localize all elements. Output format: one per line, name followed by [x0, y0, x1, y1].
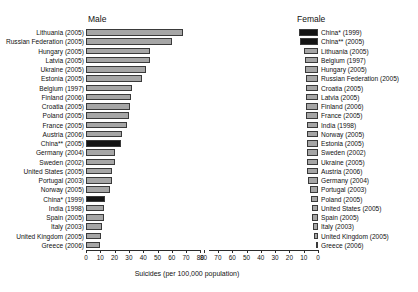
bar-track [209, 111, 318, 120]
bar-track [209, 130, 318, 139]
bar-label: Belgium (1997) [0, 85, 86, 92]
bar-label: Ukraine (2005) [0, 66, 86, 73]
bar-label: Greece (2006) [0, 242, 86, 249]
axis-tick-label: 40 [257, 254, 264, 261]
bar-row: Germany (2004) [209, 176, 418, 185]
axis-tick-label: 30 [272, 254, 279, 261]
bar-label: Lithuania (2005) [0, 29, 86, 36]
bar-label: Russian Federation (2005) [0, 38, 86, 45]
bar-row: Italy (2003) [209, 222, 418, 231]
bar-track [86, 102, 209, 111]
bar [86, 205, 104, 212]
bar [86, 122, 127, 129]
bar-label: Poland (2005) [0, 112, 86, 119]
bar-track [209, 74, 318, 83]
bar-label: India (1998) [318, 122, 356, 129]
bar-row: Greece (2006) [209, 241, 418, 250]
axis-tick [86, 250, 87, 253]
bar-row: Finland (2006) [209, 102, 418, 111]
bar-row: Estonia (2005) [0, 74, 209, 83]
bar [86, 159, 115, 166]
bar-track [86, 195, 209, 204]
axis-tick [200, 250, 201, 253]
bar [307, 159, 318, 166]
bar-track [209, 204, 318, 213]
bar-track [86, 222, 209, 231]
bar [86, 48, 150, 55]
bar-label: Croatia (2005) [0, 103, 86, 110]
bar-label: Finland (2006) [318, 103, 364, 110]
bar-label: Greece (2006) [318, 242, 364, 249]
bar-label: United States (2005) [318, 205, 381, 212]
plot-area-female: China* (1999)China** (2005)Lithuania (20… [209, 28, 418, 250]
bar [86, 149, 115, 156]
bar-track [209, 148, 318, 157]
bar [86, 94, 131, 101]
bar [307, 168, 318, 175]
axis-tick [186, 250, 187, 253]
x-axis-caption: Suicides (per 100,000 population) [0, 270, 418, 277]
bar-row: Greece (2006) [0, 241, 209, 250]
bar [312, 205, 318, 212]
bar-label: Hungary (2005) [0, 48, 86, 55]
bar-row: Belgium (1997) [0, 84, 209, 93]
bar [311, 196, 318, 203]
bar-track [86, 139, 209, 148]
bar [86, 85, 132, 92]
bar-track [86, 130, 209, 139]
bar-track [209, 28, 318, 37]
bar [307, 140, 318, 147]
bar-row: Sweden (2002) [209, 148, 418, 157]
bar-track [209, 37, 318, 46]
bar-track [86, 28, 209, 37]
bar-row: Poland (2005) [0, 111, 209, 120]
axis-tick [232, 250, 233, 253]
bar [86, 112, 129, 119]
bar-label: United Kingdom (2005) [318, 233, 389, 240]
bar-track [209, 195, 318, 204]
bar-label: Norway (2005) [318, 131, 364, 138]
bar-label: France (2005) [0, 122, 86, 129]
bar-track [86, 176, 209, 185]
bar-label: Estonia (2005) [0, 75, 86, 82]
bar-row: India (1998) [209, 121, 418, 130]
bar [86, 29, 183, 36]
axis-tick [261, 250, 262, 253]
bar-row: Poland (2005) [209, 195, 418, 204]
bar [304, 48, 318, 55]
bar-track [86, 37, 209, 46]
bar-label: Italy (2003) [318, 223, 354, 230]
bar-label: China** (2005) [0, 140, 86, 147]
bar-track [209, 232, 318, 241]
bar-row: United States (2005) [0, 167, 209, 176]
bar-track [86, 74, 209, 83]
bar [299, 29, 318, 36]
bar [312, 214, 318, 221]
bar-track [86, 241, 209, 250]
bar [313, 223, 318, 230]
bar [306, 112, 318, 119]
bar-track [209, 176, 318, 185]
panel-title-female: Female [297, 14, 325, 24]
bar-row: Belgium (1997) [209, 56, 418, 65]
bar [310, 186, 318, 193]
bar-row: Italy (2003) [0, 222, 209, 231]
bar-label: United States (2005) [0, 168, 86, 175]
bar-label: Sweden (2002) [0, 159, 86, 166]
bar [86, 186, 110, 193]
axis-tick-label: 70 [183, 254, 190, 261]
bar-row: Russian Federation (2005) [0, 37, 209, 46]
bar-track [86, 121, 209, 130]
bar-rows-male: Lithuania (2005)Russian Federation (2005… [0, 28, 209, 250]
bar-row: Latvia (2005) [0, 56, 209, 65]
bar-row: Spain (2005) [209, 213, 418, 222]
bar-row: Croatia (2005) [209, 84, 418, 93]
bar-row: Austria (2006) [0, 130, 209, 139]
bar [86, 103, 130, 110]
bar-row: China* (1999) [0, 195, 209, 204]
bar [86, 242, 100, 249]
axis-tick [204, 250, 205, 253]
axis-tick-label: 0 [84, 254, 88, 261]
axis-tick-label: 80 [200, 254, 207, 261]
bar-track [86, 148, 209, 157]
